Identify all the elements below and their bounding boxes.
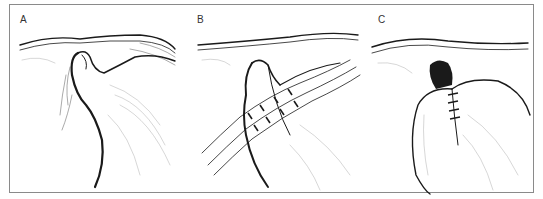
panel-c: C — [368, 5, 535, 192]
panel-b: B — [190, 5, 368, 192]
panel-a-illustration — [10, 5, 190, 194]
figure-frame: A B — [9, 4, 534, 193]
panel-a: A — [10, 5, 190, 192]
panel-c-illustration — [368, 5, 535, 194]
panel-b-illustration — [190, 5, 368, 194]
